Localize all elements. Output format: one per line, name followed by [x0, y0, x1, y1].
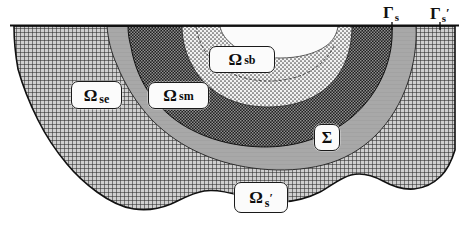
omega-se-symbol: Ω: [84, 87, 98, 104]
omega-s-prime-symbol: Ω: [249, 189, 263, 206]
omega-sm-subscript: sm: [179, 90, 194, 102]
omega-sb-symbol: Ω: [229, 51, 243, 68]
label-sigma: Σ: [314, 124, 340, 151]
gamma-s-prime-symbol: Γ: [430, 4, 441, 23]
label-omega-s-prime: Ωs′: [234, 182, 288, 213]
omega-sb-subscript: sb: [244, 54, 255, 66]
label-gamma-s: Γs: [383, 4, 399, 26]
label-omega-se: Ωse: [71, 81, 122, 109]
sigma-symbol: Σ: [322, 130, 332, 146]
label-omega-sb: Ωsb: [209, 46, 275, 73]
gamma-s-subscript: s: [395, 11, 399, 23]
omega-s-prime-mark: ′: [269, 192, 272, 204]
label-gamma-s-prime: Γs′: [430, 4, 450, 27]
omega-se-subscript: se: [99, 93, 109, 105]
label-omega-sm: Ωsm: [148, 82, 209, 109]
gamma-s-prime-mark: ′: [446, 5, 450, 20]
omega-sm-symbol: Ω: [163, 87, 177, 104]
gamma-s-symbol: Γ: [383, 3, 394, 22]
